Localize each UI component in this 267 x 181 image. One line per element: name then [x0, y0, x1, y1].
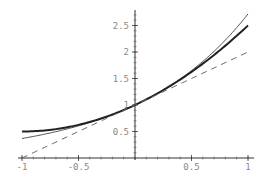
y-tick-label: 2 [124, 47, 129, 57]
y-tick-label: 1.5 [113, 74, 129, 84]
x-tick-label: 1 [245, 162, 250, 172]
y-tick-label: 2.5 [113, 21, 129, 31]
x-tick-label: -0.5 [68, 162, 90, 172]
x-tick-label: 0.5 [183, 162, 199, 172]
y-axis: 0.511.522.5 [113, 10, 138, 160]
x-tick-label: -1 [17, 162, 28, 172]
chart: -1-0.50.51 0.511.522.5 [0, 0, 267, 181]
y-tick-label: 0.5 [113, 127, 129, 137]
